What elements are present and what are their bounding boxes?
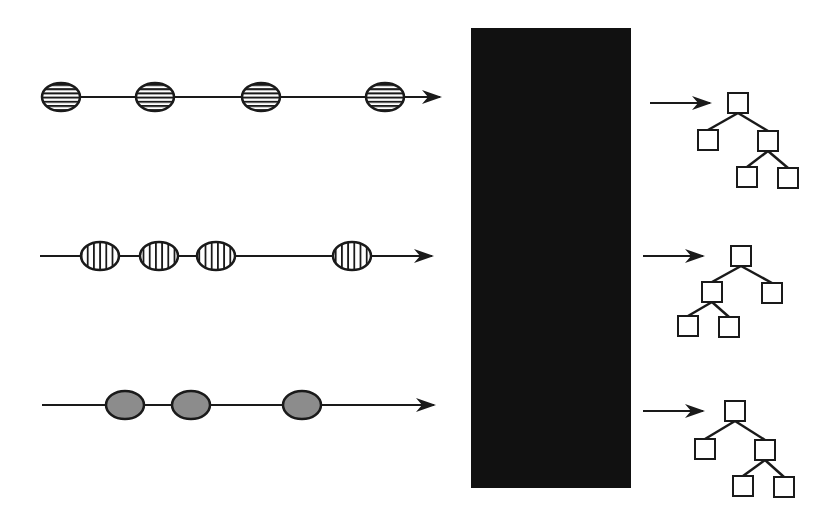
tree-edge bbox=[705, 421, 735, 439]
tree-edge bbox=[735, 421, 765, 440]
tree-edge bbox=[768, 151, 788, 168]
tree-edge bbox=[743, 460, 765, 476]
black-box bbox=[471, 28, 631, 488]
sequence-horizontal-striped bbox=[42, 83, 440, 111]
tree-node-icon bbox=[728, 93, 748, 113]
tree-node-icon bbox=[702, 282, 722, 302]
tree-node-icon bbox=[755, 440, 775, 460]
sequence-vertical-striped bbox=[40, 242, 432, 270]
tree-node-icon bbox=[778, 168, 798, 188]
output-trees bbox=[678, 93, 798, 497]
tree-node-icon bbox=[731, 246, 751, 266]
tree-node-icon bbox=[695, 439, 715, 459]
tree-edge bbox=[712, 266, 741, 282]
tree-node-icon bbox=[733, 476, 753, 496]
event-node-icon bbox=[333, 242, 371, 270]
tree-node-icon bbox=[719, 317, 739, 337]
event-node-icon bbox=[81, 242, 119, 270]
tree-1 bbox=[698, 93, 798, 188]
event-node-icon bbox=[136, 83, 174, 111]
event-node-icon bbox=[140, 242, 178, 270]
tree-node-icon bbox=[725, 401, 745, 421]
tree-edge bbox=[712, 302, 729, 317]
tree-node-icon bbox=[678, 316, 698, 336]
sequence-solid-gray bbox=[42, 391, 434, 419]
diagram-canvas bbox=[0, 0, 834, 521]
tree-node-icon bbox=[762, 283, 782, 303]
event-node-icon bbox=[42, 83, 80, 111]
tree-edge bbox=[765, 460, 784, 477]
event-node-icon bbox=[366, 83, 404, 111]
black-box-rect bbox=[471, 28, 631, 488]
event-node-icon bbox=[283, 391, 321, 419]
tree-edge bbox=[738, 113, 768, 131]
tree-edge bbox=[688, 302, 712, 316]
event-node-icon bbox=[197, 242, 235, 270]
tree-node-icon bbox=[698, 130, 718, 150]
tree-edge bbox=[741, 266, 772, 283]
event-node-icon bbox=[242, 83, 280, 111]
tree-edge bbox=[708, 113, 738, 130]
tree-node-icon bbox=[774, 477, 794, 497]
event-sequences bbox=[40, 83, 440, 419]
tree-node-icon bbox=[758, 131, 778, 151]
tree-3 bbox=[695, 401, 794, 497]
tree-edge bbox=[747, 151, 768, 167]
tree-2 bbox=[678, 246, 782, 337]
event-node-icon bbox=[172, 391, 210, 419]
tree-node-icon bbox=[737, 167, 757, 187]
event-node-icon bbox=[106, 391, 144, 419]
